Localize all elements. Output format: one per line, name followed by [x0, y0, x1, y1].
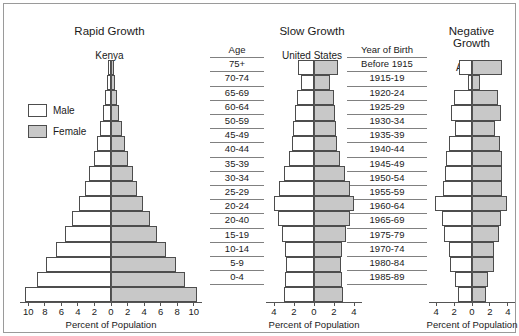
age-label-cell: 10-14	[210, 243, 264, 257]
bar-female-us	[314, 136, 337, 151]
x-tick-label-us: 2	[284, 307, 304, 317]
age-label-cell: 30-34	[210, 172, 264, 186]
axis-caption-austria: Percent of Population	[402, 320, 519, 330]
bar-male-kenya	[65, 226, 111, 241]
bar-female-austria	[472, 242, 494, 257]
bar-male-kenya	[94, 151, 111, 166]
age-label-cell: 40-44	[210, 143, 264, 157]
center-axis-us	[314, 60, 315, 302]
bar-male-austria	[442, 211, 472, 226]
bar-male-us	[286, 257, 314, 272]
bar-male-austria	[446, 151, 472, 166]
bar-male-austria	[455, 272, 472, 287]
bar-male-kenya	[25, 287, 111, 302]
age-label-cell: 25-29	[210, 186, 264, 200]
bar-female-austria	[472, 272, 488, 287]
bar-male-kenya	[56, 242, 111, 257]
age-label-cell: 20-40	[210, 214, 264, 228]
bar-female-austria	[472, 105, 501, 120]
bar-female-kenya	[111, 181, 137, 196]
age-label-header: Age	[210, 44, 264, 58]
x-tick-label-us: 4	[344, 307, 364, 317]
bar-female-kenya	[111, 196, 143, 211]
bar-female-austria	[472, 121, 495, 136]
age-label-cell: 65-69	[210, 87, 264, 101]
bar-male-us	[284, 287, 314, 302]
age-label-cell: 20-24	[210, 200, 264, 214]
bar-female-kenya	[111, 226, 157, 241]
bar-female-austria	[472, 257, 494, 272]
bar-male-austria	[458, 287, 472, 302]
bar-male-kenya	[100, 121, 111, 136]
age-label-cell: 0-4	[210, 271, 264, 285]
pyramid-chart-us	[266, 60, 362, 302]
bar-female-austria	[472, 60, 502, 75]
bar-female-kenya	[111, 211, 150, 226]
bar-male-austria	[445, 166, 472, 181]
bar-female-kenya	[111, 90, 117, 105]
bar-male-us	[295, 105, 314, 120]
bar-female-kenya	[111, 136, 125, 151]
bar-female-kenya	[111, 166, 133, 181]
axis-caption-kenya: Percent of Population	[41, 320, 181, 330]
bar-female-austria	[472, 226, 499, 241]
bar-female-us	[314, 257, 341, 272]
bar-female-austria	[472, 75, 480, 90]
bar-male-austria	[454, 90, 472, 105]
bar-female-austria	[472, 136, 500, 151]
x-axis-kenya: 1086420246810Percent of Population	[20, 302, 202, 336]
axis-caption-us: Percent of Population	[244, 320, 384, 330]
panel-title-kenya-main: Rapid Growth	[32, 25, 187, 38]
bar-male-austria	[450, 257, 472, 272]
age-label-cell: 75+	[210, 58, 264, 72]
bar-male-austria	[449, 242, 472, 257]
bar-female-kenya	[111, 121, 122, 136]
bar-female-us	[314, 196, 354, 211]
bar-male-us	[297, 90, 314, 105]
x-tick-label-us: 2	[324, 307, 344, 317]
bar-male-austria	[451, 105, 473, 120]
bar-female-kenya	[111, 257, 176, 272]
figure-frame: Rapid Growth Kenya Slow Growth United St…	[3, 3, 516, 333]
bar-male-us	[293, 121, 314, 136]
x-tick-label-us: 4	[264, 307, 284, 317]
bar-male-kenya	[85, 181, 111, 196]
bar-female-us	[314, 151, 340, 166]
bar-male-us	[285, 242, 314, 257]
x-axis-us: 42024Percent of Population	[266, 302, 362, 336]
bar-female-austria	[472, 90, 498, 105]
bar-female-austria	[472, 211, 501, 226]
age-label-cell: 70-74	[210, 72, 264, 86]
bar-female-austria	[472, 166, 502, 181]
bar-female-austria	[472, 196, 507, 211]
bar-female-kenya	[111, 151, 128, 166]
bar-male-kenya	[89, 166, 111, 181]
bar-female-us	[314, 75, 330, 90]
bar-female-us	[314, 121, 336, 136]
center-axis-austria	[472, 60, 473, 302]
bar-male-us	[284, 166, 314, 181]
bar-female-kenya	[111, 105, 119, 120]
bar-female-us	[314, 242, 342, 257]
bar-male-kenya	[37, 272, 111, 287]
bar-female-kenya	[111, 242, 166, 257]
bar-male-us	[274, 196, 314, 211]
bar-female-austria	[472, 151, 502, 166]
bar-male-kenya	[97, 136, 111, 151]
bar-male-us	[298, 60, 314, 75]
bar-female-us	[314, 166, 345, 181]
age-label-cell: 35-39	[210, 158, 264, 172]
bar-male-us	[282, 226, 314, 241]
x-tick-label-kenya: 10	[184, 307, 204, 317]
x-tick-label-austria: 4	[498, 307, 518, 317]
bar-male-us	[301, 75, 314, 90]
bar-male-kenya	[46, 257, 111, 272]
bar-male-kenya	[79, 196, 111, 211]
pyramid-chart-austria	[429, 60, 515, 302]
bar-female-us	[314, 60, 338, 75]
bar-female-kenya	[111, 75, 115, 90]
age-label-cell: 60-64	[210, 101, 264, 115]
bar-male-kenya	[72, 211, 111, 226]
age-label-cell: 5-9	[210, 257, 264, 271]
bar-female-us	[314, 272, 342, 287]
